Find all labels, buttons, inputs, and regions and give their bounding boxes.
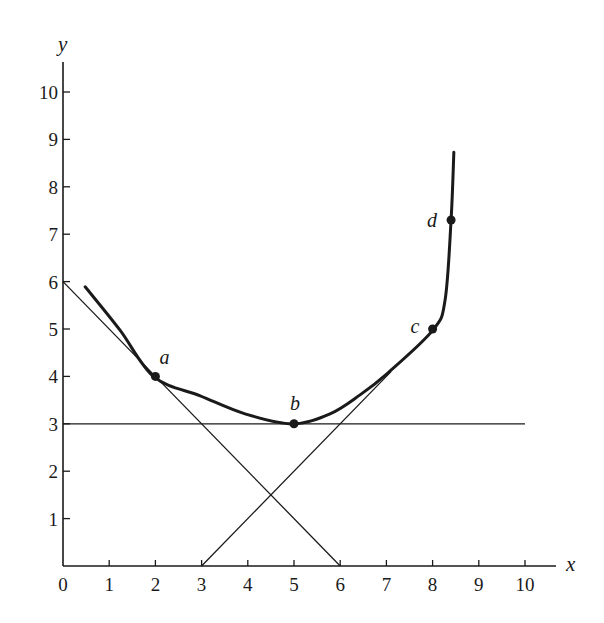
- point-label-b: b: [290, 392, 300, 414]
- y-tick-label: 3: [49, 414, 59, 435]
- point-a: [151, 372, 160, 381]
- chart: 012345678910 12345678910 abcd x y: [0, 0, 604, 623]
- y-tick-label: 4: [49, 366, 59, 387]
- y-axis: 12345678910: [39, 62, 70, 566]
- curve-curve: [85, 152, 454, 424]
- x-tick-label: 3: [197, 574, 207, 595]
- y-axis-label: y: [56, 32, 68, 56]
- point-c: [428, 325, 437, 334]
- x-tick-label: 4: [243, 574, 253, 595]
- y-tick-label: 5: [49, 319, 59, 340]
- y-tick-label: 9: [49, 129, 59, 150]
- y-tick-label: 8: [49, 177, 59, 198]
- point-d: [447, 215, 456, 224]
- point-b: [290, 419, 299, 428]
- x-axis: 012345678910: [58, 560, 556, 595]
- x-tick-label: 2: [151, 574, 161, 595]
- y-tick-label: 1: [49, 509, 59, 530]
- y-tick-label: 2: [49, 461, 59, 482]
- x-axis-label: x: [565, 552, 576, 576]
- y-tick-label: 7: [49, 224, 59, 245]
- x-tick-label: 5: [289, 574, 299, 595]
- x-tick-label: 8: [428, 574, 438, 595]
- y-tick-label: 6: [49, 272, 59, 293]
- point-label-c: c: [411, 315, 420, 337]
- lines: [63, 152, 525, 566]
- x-tick-label: 0: [58, 574, 68, 595]
- point-label-a: a: [159, 346, 169, 368]
- x-tick-label: 6: [335, 574, 345, 595]
- point-label-d: d: [427, 209, 438, 231]
- x-tick-label: 1: [104, 574, 114, 595]
- y-tick-label: 10: [39, 82, 58, 103]
- x-tick-label: 7: [382, 574, 392, 595]
- x-tick-label: 9: [474, 574, 484, 595]
- x-tick-label: 10: [516, 574, 535, 595]
